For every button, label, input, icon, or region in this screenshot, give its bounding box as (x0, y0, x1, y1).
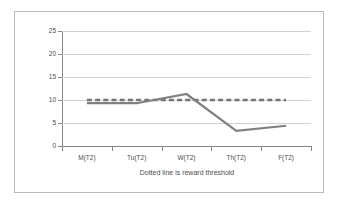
figure-frame: Misbehaviors 0510152025 M(T2)Tu(T2)W(T2)… (14, 11, 324, 193)
x-axis-tick-label: Tu(T2) (112, 154, 162, 162)
gridline (62, 146, 311, 147)
x-axis-tick (311, 146, 312, 151)
y-axis-tick-label: 10 (15, 96, 56, 103)
chart-screenshot: Misbehaviors 0510152025 M(T2)Tu(T2)W(T2)… (0, 0, 338, 205)
x-axis-tick-label: Th(T2) (211, 154, 261, 162)
y-axis-tick-label: 20 (15, 50, 56, 57)
y-axis-tick-label: 0 (15, 142, 56, 149)
x-axis-title: Dotted line is reward threshold (62, 169, 312, 176)
y-axis-tick-label: 5 (15, 119, 56, 126)
y-axis-tick-label: 15 (15, 73, 56, 80)
series-lines (62, 31, 311, 146)
plot-area (62, 31, 311, 146)
x-axis-tick-label: M(T2) (62, 154, 112, 162)
y-axis-tick-label: 25 (15, 27, 56, 34)
x-axis-tick-label: F(T2) (261, 154, 311, 162)
line-chart: Misbehaviors 0510152025 M(T2)Tu(T2)W(T2)… (15, 12, 325, 194)
x-axis-tick-label: W(T2) (162, 154, 212, 162)
